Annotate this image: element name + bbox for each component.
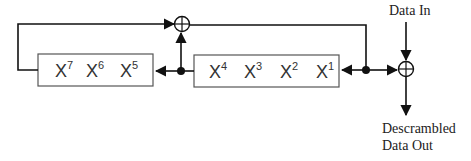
data-out-label-line2: Data Out bbox=[382, 138, 433, 153]
data-out-label-line1: Descrambled bbox=[382, 121, 456, 136]
descrambler-diagram: X7 X6 X5 X4 X3 X2 X1 bbox=[0, 0, 471, 161]
register-box-high: X7 X6 X5 bbox=[38, 54, 153, 86]
output-xor-icon bbox=[399, 62, 414, 77]
data-in-label: Data In bbox=[389, 3, 431, 18]
register-box-low: X4 X3 X2 X1 bbox=[194, 55, 339, 87]
junction-dot-input bbox=[362, 66, 370, 74]
tap-x4-junction bbox=[156, 33, 194, 71]
feedback-xor-icon bbox=[175, 17, 190, 32]
junction-dot-x4 bbox=[177, 67, 185, 75]
